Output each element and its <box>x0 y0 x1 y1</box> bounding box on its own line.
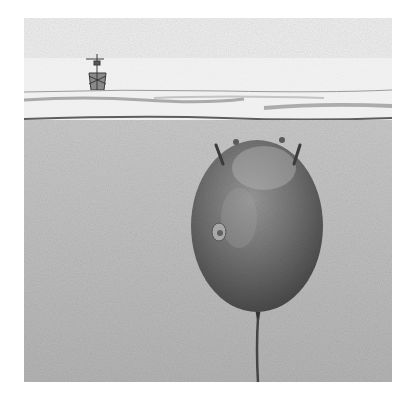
illustration-frame: Sea mine underwater below a ship on the … <box>24 18 392 382</box>
sea-mine <box>191 140 323 312</box>
horizon-waves <box>24 90 392 122</box>
sea-mine-illustration <box>24 18 392 382</box>
sky <box>24 18 392 90</box>
